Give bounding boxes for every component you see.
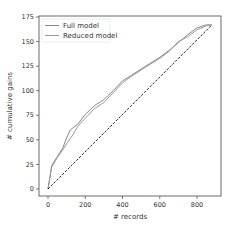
x-axis-label: # records	[113, 213, 147, 221]
legend: Full model Reduced model	[42, 19, 117, 42]
cumulative-gains-chart: 0255075100125150175 0200400600800 # reco…	[0, 0, 235, 228]
y-tick-label: 175	[22, 13, 34, 21]
y-tick-label: 50	[26, 136, 34, 144]
y-tick-label: 100	[22, 87, 34, 95]
plot-area	[48, 25, 212, 189]
y-axis: 0255075100125150175	[22, 13, 39, 193]
x-tick-label: 400	[116, 201, 128, 209]
y-tick-label: 125	[22, 62, 34, 70]
y-axis-label: # cumulative gains	[6, 72, 14, 140]
x-tick-label: 200	[79, 201, 91, 209]
y-tick-label: 0	[30, 185, 34, 193]
x-tick-label: 600	[154, 201, 166, 209]
legend-label-reduced-model: Reduced model	[63, 32, 117, 40]
x-tick-label: 800	[191, 201, 203, 209]
y-tick-label: 75	[26, 111, 34, 119]
y-tick-label: 150	[22, 38, 34, 46]
x-axis: 0200400600800	[46, 196, 203, 209]
x-tick-label: 0	[46, 201, 50, 209]
legend-label-full-model: Full model	[63, 22, 99, 30]
y-tick-label: 25	[26, 161, 34, 169]
series-line-baseline	[48, 25, 212, 189]
